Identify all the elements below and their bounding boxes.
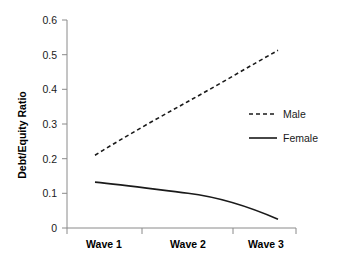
chart-container: 0.6 0.5 0.4 0.3 0.2 0.1 0 Wave 1 Wave 2 …: [0, 0, 337, 262]
y-tick-label-0.3: 0.3: [42, 118, 57, 130]
y-tick-label-0.5: 0.5: [42, 49, 57, 61]
debt-equity-ratio-line-chart: 0.6 0.5 0.4 0.3 0.2 0.1 0 Wave 1 Wave 2 …: [0, 0, 337, 262]
x-category-label-wave-2: Wave 2: [170, 238, 206, 250]
x-category-label-wave-1: Wave 1: [86, 238, 122, 250]
y-tick-label-0.1: 0.1: [42, 187, 57, 199]
y-tick-label-0.2: 0.2: [42, 153, 57, 165]
legend-label-female: Female: [283, 132, 318, 144]
legend-label-male: Male: [283, 108, 306, 120]
y-tick-label-0.6: 0.6: [42, 14, 57, 26]
y-tick-label-0.4: 0.4: [42, 83, 57, 95]
y-axis-title: Debt/Equity Ratio: [16, 91, 28, 179]
y-tick-label-0: 0: [51, 222, 57, 234]
x-category-label-wave-3: Wave 3: [248, 238, 284, 250]
